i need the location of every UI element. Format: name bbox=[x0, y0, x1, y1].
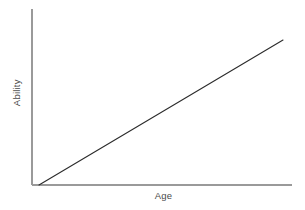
x-axis-label: Age bbox=[0, 191, 305, 201]
chart-figure: Ability Age bbox=[0, 0, 305, 210]
y-axis-label: Ability bbox=[11, 79, 21, 106]
chart-background bbox=[0, 0, 305, 210]
chart-canvas bbox=[0, 0, 305, 210]
y-axis-label-container: Ability bbox=[0, 0, 32, 185]
